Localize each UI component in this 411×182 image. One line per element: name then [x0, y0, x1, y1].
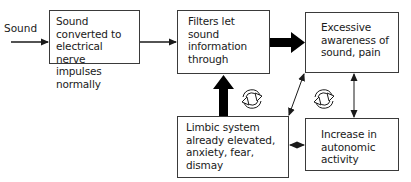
thick-arrow-limbic-to-filters	[213, 75, 234, 116]
cycle-icon-left	[242, 90, 262, 108]
cycle-icon-right	[314, 90, 334, 108]
thick-arrow-filters-to-awareness	[270, 32, 305, 53]
connectors	[0, 0, 411, 182]
